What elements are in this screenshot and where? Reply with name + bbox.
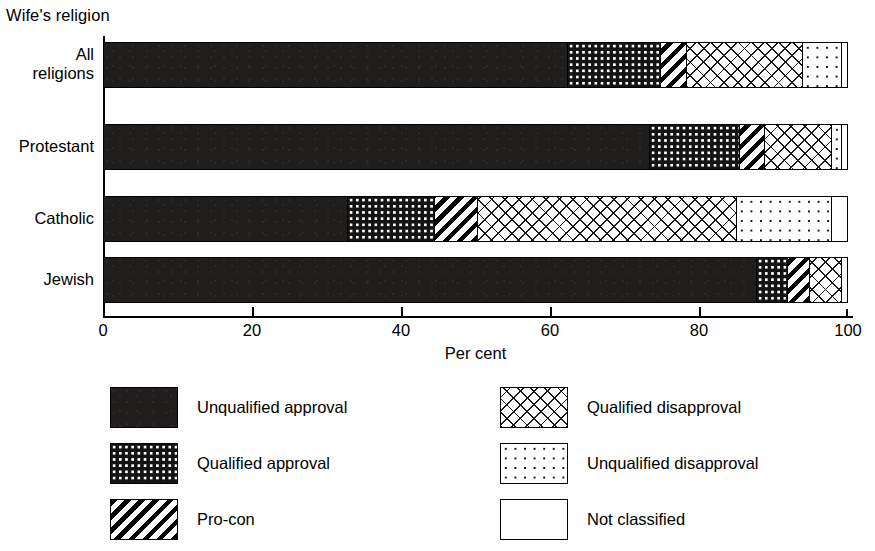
legend-item[interactable]: Qualified disapproval xyxy=(500,385,759,429)
legend-item[interactable]: Not classified xyxy=(500,497,759,541)
legend-item[interactable]: Unqualified disapproval xyxy=(500,441,759,485)
category-label: Jewish xyxy=(0,270,94,289)
plot-area xyxy=(103,36,853,316)
bar-segment[interactable] xyxy=(810,258,842,302)
x-axis-tick xyxy=(252,307,254,317)
bar-segment[interactable] xyxy=(740,125,765,169)
legend-item[interactable]: Qualified approval xyxy=(110,441,347,485)
x-axis-line xyxy=(103,316,853,318)
bar-segment[interactable] xyxy=(842,258,847,302)
bar-segment[interactable] xyxy=(435,197,478,241)
x-axis-end-cap xyxy=(846,309,848,318)
stacked-bar[interactable] xyxy=(103,257,848,303)
stacked-bar[interactable] xyxy=(103,42,848,88)
bar-row xyxy=(103,257,848,303)
bar-segment[interactable] xyxy=(661,43,688,87)
legend-swatch-empty-white xyxy=(500,499,568,540)
x-axis-tick xyxy=(699,307,701,317)
bar-segment[interactable] xyxy=(757,258,787,302)
category-label: Allreligions xyxy=(0,45,94,83)
bar-segment[interactable] xyxy=(832,197,847,241)
x-axis-tick-label: 100 xyxy=(834,321,862,340)
x-axis-tick xyxy=(401,307,403,317)
bar-segment[interactable] xyxy=(803,43,842,87)
bar-segment[interactable] xyxy=(737,197,832,241)
legend-swatch-crosshatch xyxy=(500,387,568,428)
legend-label: Not classified xyxy=(587,510,685,529)
legend-label: Pro-con xyxy=(197,510,255,529)
legend-label: Qualified disapproval xyxy=(587,398,741,417)
group-axis-title: Wife's religion xyxy=(6,6,110,25)
x-axis-title: Per cent xyxy=(445,344,506,363)
bar-segment[interactable] xyxy=(842,43,847,87)
bar-segment[interactable] xyxy=(348,197,436,241)
legend-column-left: Unqualified approvalQualified approvalPr… xyxy=(110,385,347,551)
category-label: Catholic xyxy=(0,209,94,228)
x-axis-end-cap xyxy=(103,309,105,318)
legend-label: Unqualified approval xyxy=(197,398,347,417)
x-axis-tick xyxy=(550,307,552,317)
bar-segment[interactable] xyxy=(104,125,650,169)
legend-swatch-diagonal-stripes xyxy=(110,499,178,540)
x-axis-tick-label: 0 xyxy=(98,321,107,340)
bar-segment[interactable] xyxy=(478,197,737,241)
legend-label: Qualified approval xyxy=(197,454,330,473)
bar-segment[interactable] xyxy=(842,125,847,169)
bar-segment[interactable] xyxy=(104,258,757,302)
legend-swatch-sparse-dots xyxy=(500,443,568,484)
bar-segment[interactable] xyxy=(788,258,810,302)
legend-label: Unqualified disapproval xyxy=(587,454,759,473)
bar-segment[interactable] xyxy=(832,125,842,169)
stacked-bar[interactable] xyxy=(103,196,848,242)
legend-swatch-dense-dots-on-black xyxy=(110,443,178,484)
bar-segment[interactable] xyxy=(765,125,833,169)
bar-segment[interactable] xyxy=(104,197,348,241)
bar-segment[interactable] xyxy=(104,43,568,87)
bar-segment[interactable] xyxy=(568,43,661,87)
bar-segment[interactable] xyxy=(687,43,803,87)
legend-item[interactable]: Pro-con xyxy=(110,497,347,541)
bar-row xyxy=(103,42,848,88)
legend-column-right: Qualified disapprovalUnqualified disappr… xyxy=(500,385,759,551)
bar-row xyxy=(103,196,848,242)
bar-segment[interactable] xyxy=(650,125,740,169)
stacked-bar[interactable] xyxy=(103,124,848,170)
x-axis-tick-label: 60 xyxy=(541,321,559,340)
x-axis-tick-label: 80 xyxy=(690,321,708,340)
category-label: Protestant xyxy=(0,137,94,156)
legend-item[interactable]: Unqualified approval xyxy=(110,385,347,429)
legend-swatch-solid-black xyxy=(110,387,178,428)
x-axis-tick-label: 20 xyxy=(243,321,261,340)
x-axis-tick-label: 40 xyxy=(392,321,410,340)
bar-row xyxy=(103,124,848,170)
stacked-bar-chart: Wife's religion 020406080100 Per cent Un… xyxy=(0,0,875,551)
